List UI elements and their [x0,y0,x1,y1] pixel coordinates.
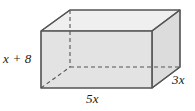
prism-front-face [41,31,152,88]
rectangular-prism-figure: x + 8 5x 3x [0,0,195,111]
height-label: x + 8 [3,52,32,65]
depth-label: 3x [172,73,185,86]
width-label: 5x [86,92,99,105]
